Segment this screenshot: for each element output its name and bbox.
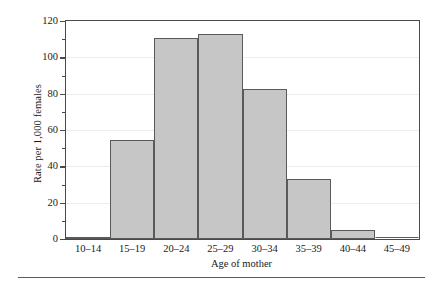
y-tick-label: 100 — [42, 52, 58, 63]
bar — [66, 237, 110, 239]
bar — [154, 38, 198, 239]
bar — [287, 179, 331, 239]
bottom-rule — [18, 277, 425, 278]
bar — [110, 140, 154, 239]
x-tick-label: 40–44 — [340, 244, 366, 255]
y-axis-title: Rate per 1,000 females — [32, 34, 43, 234]
y-tick-label: 80 — [48, 88, 59, 99]
x-tick-label: 35–39 — [296, 244, 322, 255]
x-tick-label: 15–19 — [119, 244, 145, 255]
histogram-figure: Rate per 1,000 females 020406080100120 1… — [0, 0, 443, 286]
x-tick-label: 30–34 — [251, 244, 277, 255]
bar — [198, 34, 242, 239]
bar — [375, 237, 419, 239]
bar — [331, 230, 375, 239]
bar — [243, 89, 287, 239]
y-tick-label: 120 — [42, 16, 58, 27]
plot-inner: 020406080100120 10–1415–1920–2425–2930–3… — [66, 21, 419, 239]
plot-area: 020406080100120 10–1415–1920–2425–2930–3… — [65, 20, 420, 240]
y-tick-label: 20 — [48, 197, 59, 208]
x-axis-title: Age of mother — [65, 258, 418, 269]
x-tick-label: 20–24 — [163, 244, 189, 255]
x-tick-label: 45–49 — [384, 244, 410, 255]
x-tick-label: 25–29 — [207, 244, 233, 255]
bar-series — [66, 21, 419, 239]
y-tick-label: 40 — [48, 161, 59, 172]
y-tick-label: 60 — [48, 125, 59, 136]
y-tick-label: 0 — [53, 234, 58, 245]
y-tick-mark — [60, 239, 66, 240]
x-tick-label: 10–14 — [75, 244, 101, 255]
